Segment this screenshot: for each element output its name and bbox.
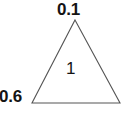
triangle-diagram: 0.1 0.6 1 xyxy=(0,0,129,120)
center-value-label: 1 xyxy=(66,60,75,77)
triangle-outline xyxy=(32,20,120,103)
bottom-left-value-label: 0.6 xyxy=(0,88,22,105)
apex-value-label: 0.1 xyxy=(57,1,80,18)
